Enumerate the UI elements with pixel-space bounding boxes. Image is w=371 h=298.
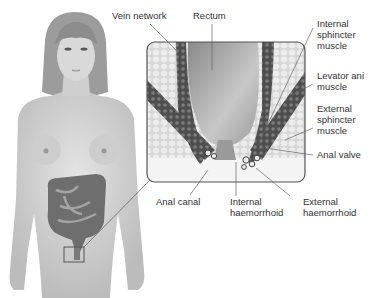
label-external-haemorrhoid: External haemorrhoid [303, 196, 356, 218]
label-vein-network: Vein network [112, 10, 166, 21]
label-anal-valve: Anal valve [317, 149, 361, 160]
anatomy-diagram: Vein network Rectum Internal sphincter m… [0, 0, 371, 298]
rectum-inset [147, 42, 305, 188]
label-internal-sphincter-muscle: Internal sphincter muscle [317, 18, 356, 51]
label-rectum: Rectum [193, 10, 226, 21]
label-anal-canal: Anal canal [156, 196, 200, 207]
anatomy-illustration [0, 0, 371, 298]
label-levator-ani-muscle: Levator ani muscle [317, 70, 364, 92]
label-internal-haemorrhoid: Internal haemorrhoid [230, 196, 283, 218]
label-external-sphincter-muscle: External sphincter muscle [317, 103, 356, 136]
